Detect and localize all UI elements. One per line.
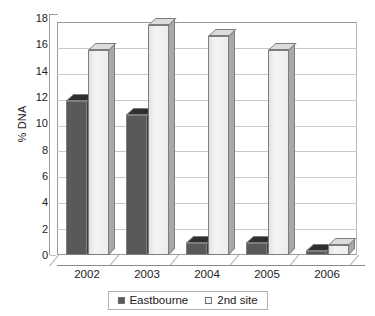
- floor-separator: [169, 255, 178, 266]
- x-tick-label: 2004: [177, 268, 237, 284]
- x-tick-label: 2003: [117, 268, 177, 284]
- category-axis-floor: [49, 255, 365, 266]
- bar-group: [297, 22, 357, 255]
- y-tick-label: 12: [36, 91, 48, 102]
- floor-separator: [49, 255, 58, 266]
- y-tick-label: 2: [42, 223, 48, 234]
- bar-front-face: [126, 115, 147, 255]
- bar-front-face: [88, 50, 109, 255]
- legend-item-eastbourne: Eastbourne: [117, 294, 188, 306]
- legend-swatch-filled-square-icon: [117, 297, 124, 304]
- y-tick-label: 14: [36, 65, 48, 76]
- bar-front-face: [186, 243, 207, 255]
- bar-groups: [57, 22, 357, 255]
- x-tick-label: 2006: [297, 268, 357, 284]
- bar-side-face: [109, 44, 115, 255]
- legend-swatch-open-square-icon: [205, 297, 212, 304]
- bar-2nd-site: [268, 50, 289, 255]
- bar-group: [117, 22, 177, 255]
- bar-eastbourne: [66, 101, 87, 255]
- bar-2nd-site: [208, 36, 229, 255]
- bar-front-face: [66, 101, 87, 255]
- bar-front-face: [268, 50, 289, 255]
- floor-separator: [229, 255, 238, 266]
- chart-legend: Eastbourne 2nd site: [107, 291, 267, 310]
- bar-2nd-site: [88, 50, 109, 255]
- y-tick-label: 16: [36, 39, 48, 50]
- bar-chart: % DNA 18 16 14 12 10 8 6 4 2 0: [0, 0, 375, 316]
- y-tick-label: 6: [42, 170, 48, 181]
- y-tick-label: 0: [42, 250, 48, 261]
- bar-front-face: [246, 243, 267, 255]
- legend-label: Eastbourne: [129, 294, 188, 306]
- bar-group: [57, 22, 117, 255]
- plot-area: [57, 22, 357, 255]
- floor-separator: [109, 255, 118, 266]
- y-tick-label: 18: [36, 13, 48, 24]
- x-tick-label: 2005: [237, 268, 297, 284]
- legend-item-2nd-site: 2nd site: [205, 294, 257, 306]
- bar-2nd-site: [148, 25, 169, 255]
- y-axis-ticks: 18 16 14 12 10 8 6 4 2 0: [24, 18, 48, 255]
- bar-group: [237, 22, 297, 255]
- y-tick-label: 4: [42, 197, 48, 208]
- bar-eastbourne: [126, 115, 147, 255]
- x-axis-labels: 2002 2003 2004 2005 2006: [57, 268, 357, 284]
- bar-eastbourne: [186, 243, 207, 255]
- bar-group: [177, 22, 237, 255]
- bar-front-face: [148, 25, 169, 255]
- floor-separator: [349, 255, 358, 266]
- y-tick-label: 10: [36, 118, 48, 129]
- bar-2nd-site: [328, 245, 349, 255]
- bar-side-face: [169, 18, 175, 255]
- plot-left-wall: [49, 14, 57, 255]
- bar-side-face: [289, 44, 295, 255]
- legend-label: 2nd site: [217, 294, 257, 306]
- category-axis-line: [57, 265, 365, 266]
- bar-eastbourne: [246, 243, 267, 255]
- x-tick-label: 2002: [57, 268, 117, 284]
- bar-front-face: [208, 36, 229, 255]
- bar-side-face: [229, 30, 235, 255]
- y-tick-label: 8: [42, 144, 48, 155]
- floor-separator: [289, 255, 298, 266]
- bar-front-face: [328, 245, 349, 255]
